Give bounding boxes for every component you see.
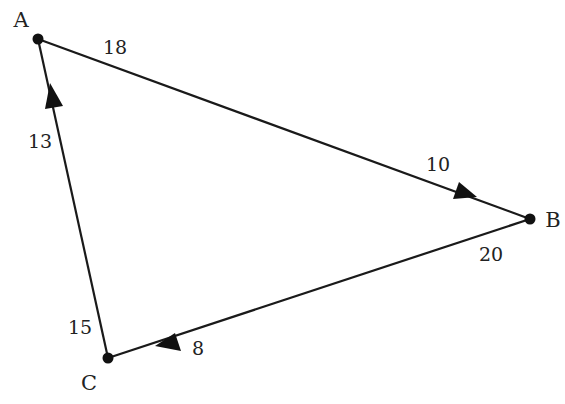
vertex-label-b: B <box>545 208 560 232</box>
weight-bc-near-b: 20 <box>479 243 503 265</box>
triangle-graph-diagram: A B C 18 10 20 8 15 13 <box>0 0 565 404</box>
weight-ab-near-a: 18 <box>103 36 127 58</box>
weight-bc-near-c: 8 <box>192 337 204 359</box>
arrow-a-to-b-icon <box>453 182 477 199</box>
vertex-label-a: A <box>12 8 29 32</box>
weight-ca-near-c: 15 <box>68 316 92 338</box>
vertex-label-c: C <box>81 371 97 395</box>
vertex-a <box>33 34 44 45</box>
vertex-c <box>103 353 114 364</box>
edge-c-to-a <box>38 39 108 358</box>
weight-ab-near-b: 10 <box>426 153 450 175</box>
vertex-b <box>525 214 536 225</box>
weight-ca-near-a: 13 <box>28 130 52 152</box>
